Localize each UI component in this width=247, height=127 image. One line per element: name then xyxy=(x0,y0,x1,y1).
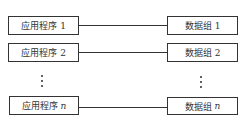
data-group-index-n: n xyxy=(215,101,221,111)
data-group-label-n: 数据组 xyxy=(185,100,212,113)
app-box-1: 应用程序 1 xyxy=(8,16,79,35)
data-group-label-1: 数据组 xyxy=(185,19,212,32)
data-group-box-1: 数据组 1 xyxy=(167,16,238,35)
app-label-1: 应用程序 xyxy=(21,19,57,32)
app-index-2: 2 xyxy=(60,48,66,58)
app-box-n: 应用程序 n xyxy=(9,96,79,115)
data-group-box-2: 数据组 2 xyxy=(167,43,238,62)
app-index-1: 1 xyxy=(60,21,66,31)
vertical-ellipsis-left xyxy=(41,75,43,89)
app-label-2: 应用程序 xyxy=(21,46,57,59)
connector-line-2 xyxy=(79,52,167,53)
data-group-index-2: 2 xyxy=(215,48,221,58)
data-group-label-2: 数据组 xyxy=(185,46,212,59)
connector-line-1 xyxy=(79,25,167,26)
app-box-2: 应用程序 2 xyxy=(8,43,79,62)
connector-line-n xyxy=(79,107,167,108)
app-index-n: n xyxy=(61,101,67,111)
data-group-box-n: 数据组 n xyxy=(167,97,238,115)
data-group-index-1: 1 xyxy=(215,21,221,31)
app-label-n: 应用程序 xyxy=(22,99,58,112)
vertical-ellipsis-right xyxy=(200,76,202,90)
